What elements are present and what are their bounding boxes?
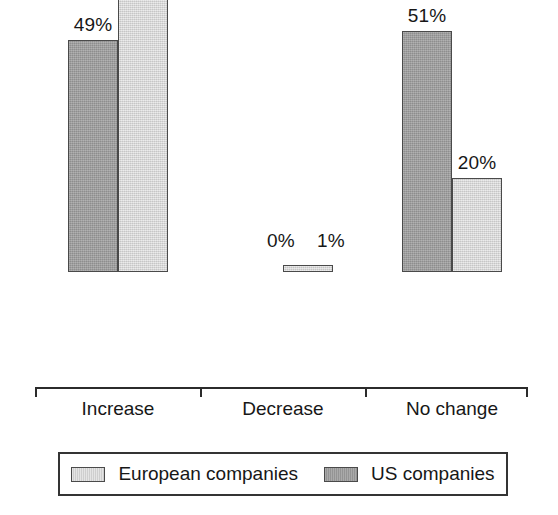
bar-increase-european-companies[interactable]: [118, 0, 168, 272]
x-axis-line: [35, 387, 528, 389]
legend-item-european-companies[interactable]: European companies: [71, 463, 298, 485]
bar-no-change-us-companies[interactable]: [402, 31, 452, 272]
bar-chart: 49% 70% 0% 1% 51% 20%: [0, 0, 558, 515]
bar-value-increase-us: 49%: [63, 14, 123, 36]
x-axis-right-cap: [526, 388, 528, 397]
bar-value-no-change-us: 51%: [397, 5, 457, 27]
bar-no-change-european-companies[interactable]: [452, 178, 502, 272]
chart-legend: European companies US companies: [58, 452, 508, 496]
bar-decrease-european-companies[interactable]: [283, 265, 333, 272]
bar-value-decrease-european: 1%: [301, 230, 361, 252]
plot-area: 49% 70% 0% 1% 51% 20%: [0, 0, 558, 400]
x-axis-label-no-change: No change: [372, 398, 532, 420]
legend-swatch-icon-european: [71, 467, 105, 482]
legend-label-us: US companies: [371, 463, 495, 485]
legend-item-us-companies[interactable]: US companies: [324, 463, 495, 485]
x-axis-left-cap: [35, 388, 37, 397]
bar-value-no-change-european: 20%: [447, 152, 507, 174]
bar-group-decrease: 0% 1%: [283, 0, 383, 272]
x-axis-label-decrease: Decrease: [203, 398, 363, 420]
x-axis-tick-1: [200, 388, 202, 397]
bar-group-increase: 49% 70%: [68, 0, 168, 272]
x-axis-label-increase: Increase: [38, 398, 198, 420]
x-axis-tick-2: [365, 388, 367, 397]
bar-group-no-change: 51% 20%: [402, 0, 502, 272]
legend-label-european: European companies: [118, 463, 298, 485]
bar-increase-us-companies[interactable]: [68, 40, 118, 272]
legend-swatch-icon-us: [324, 467, 358, 482]
